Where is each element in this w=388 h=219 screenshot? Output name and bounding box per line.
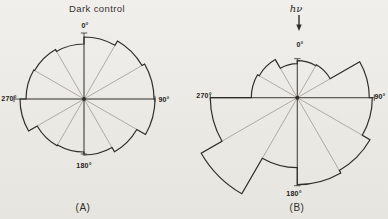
rose-diagrams [0, 0, 388, 219]
panel-a-title: Dark control [69, 3, 125, 14]
angle-label-b-270: 270° [196, 92, 211, 99]
light-arrow-head [296, 25, 301, 32]
sector-boundary-line-a [84, 64, 145, 99]
angle-label-a-180: 180° [76, 162, 91, 169]
angle-label-a-90: 90° [158, 96, 169, 103]
panel-a-caption: (A) [76, 202, 91, 213]
sector-boundary-line-a [57, 99, 84, 146]
sector-boundary-line-b [297, 98, 370, 140]
light-stimulus-annotation: hν [290, 3, 303, 14]
panel-b-caption: (B) [290, 202, 305, 213]
sector-boundary-line-a [84, 99, 115, 152]
sector-boundary-line-a [56, 50, 85, 99]
sector-boundary-line-a [34, 70, 84, 99]
angle-label-a-270: 270° [1, 95, 16, 102]
angle-label-b-90: 90° [374, 93, 385, 100]
angle-label-a-0: 0° [81, 22, 88, 29]
center-dot-a [82, 97, 86, 101]
angle-label-b-0: 0° [296, 41, 303, 48]
sector-boundary-line-a [84, 41, 118, 99]
rose-outline-a [20, 37, 155, 155]
center-dot-b [295, 96, 299, 100]
sector-boundary-line-b [257, 75, 297, 98]
sector-boundary-line-b [297, 98, 341, 173]
angle-label-b-180: 180° [286, 190, 301, 197]
sector-boundary-line-a [84, 99, 145, 135]
sector-boundary-line-b [297, 65, 316, 98]
figure-canvas: Dark control hν (A) (B) 0°90°180°270°0°9… [0, 0, 388, 219]
